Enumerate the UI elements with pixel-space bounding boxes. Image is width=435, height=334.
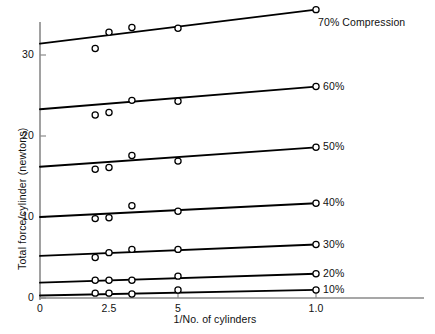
data-point: [129, 97, 135, 103]
data-point: [175, 98, 181, 104]
data-point: [313, 200, 319, 206]
series-label-60-: 60%: [323, 80, 344, 92]
x-axis-tick-label: 1.0: [296, 302, 336, 314]
series-label-30-: 30%: [323, 238, 344, 250]
data-point: [106, 290, 112, 296]
data-point: [92, 112, 98, 118]
chart-figure: 010203002.551.070% Compression60%50%40%3…: [0, 0, 435, 334]
data-point: [92, 45, 98, 51]
data-point: [106, 109, 112, 115]
series-label-70-compression: 70% Compression: [318, 16, 405, 28]
y-axis-title: Total force/cylinder (newtons): [16, 127, 28, 270]
data-point: [92, 290, 98, 296]
data-point: [175, 273, 181, 279]
data-point: [129, 152, 135, 158]
series-label-10-: 10%: [323, 283, 344, 295]
data-point: [106, 164, 112, 170]
data-point: [129, 24, 135, 30]
data-point: [175, 287, 181, 293]
x-axis-tick-label: 0: [20, 302, 60, 314]
data-point: [313, 271, 319, 277]
data-point: [313, 7, 319, 13]
data-point: [129, 246, 135, 252]
data-point: [129, 277, 135, 283]
data-point: [106, 29, 112, 35]
data-point: [175, 158, 181, 164]
data-point: [106, 215, 112, 221]
x-axis-title: 1/No. of cylinders: [150, 313, 280, 325]
data-point: [175, 25, 181, 31]
x-axis-tick-label: 2.5: [89, 302, 129, 314]
data-point: [313, 287, 319, 293]
data-point: [92, 166, 98, 172]
data-point: [92, 254, 98, 260]
data-point: [92, 277, 98, 283]
data-point: [92, 216, 98, 222]
data-point: [106, 277, 112, 283]
chart-plot-area: [0, 0, 435, 334]
data-point: [313, 83, 319, 89]
data-point: [175, 246, 181, 252]
series-label-50-: 50%: [323, 140, 344, 152]
data-point: [175, 208, 181, 214]
data-point: [129, 203, 135, 209]
series-label-40-: 40%: [323, 196, 344, 208]
data-point: [106, 250, 112, 256]
data-point: [129, 291, 135, 297]
y-axis-tick-label: 30: [6, 48, 34, 60]
series-label-20-: 20%: [323, 267, 344, 279]
data-point: [313, 241, 319, 247]
data-point: [313, 144, 319, 150]
